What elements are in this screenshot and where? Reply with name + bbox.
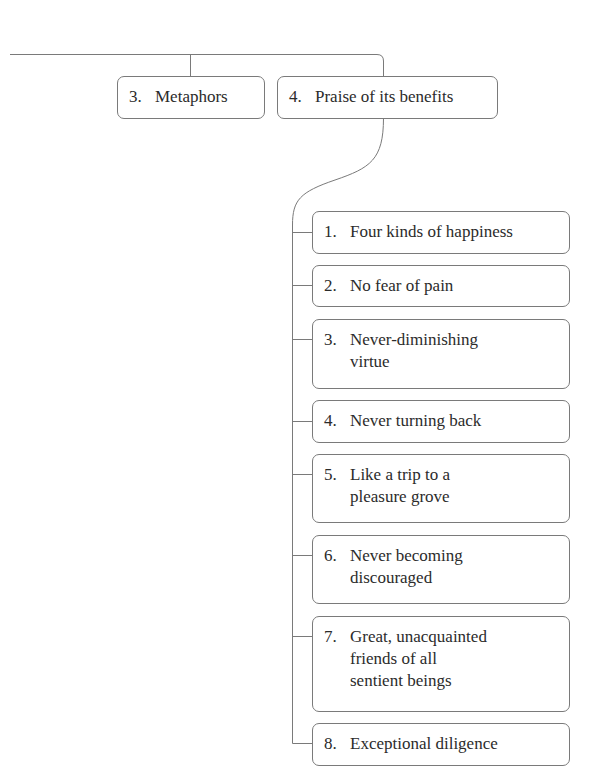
node-label: Exceptional diligence (350, 733, 559, 755)
node-never-becoming-discouraged: 6. Never becoming discouraged (312, 535, 570, 604)
node-exceptional-diligence: 8. Exceptional diligence (312, 723, 570, 766)
node-number: 5. (324, 464, 350, 486)
node-label: Metaphors (155, 86, 254, 108)
node-number: 4. (289, 86, 315, 108)
curved-connector (293, 118, 384, 225)
node-never-turning-back: 4. Never turning back (312, 400, 570, 443)
top-horizontal-connector (10, 55, 384, 77)
node-label: Great, unacquainted friends of all senti… (350, 626, 559, 692)
node-never-diminishing-virtue: 3. Never-diminishing virtue (312, 319, 570, 389)
node-praise-of-benefits: 4. Praise of its benefits (277, 76, 498, 119)
node-label: Never turning back (350, 410, 559, 432)
trunk-connector (293, 225, 313, 744)
node-number: 2. (324, 275, 350, 297)
node-number: 1. (324, 221, 350, 243)
node-label: Like a trip to a pleasure grove (350, 464, 559, 508)
node-metaphors: 3. Metaphors (117, 76, 265, 119)
node-label: Never becoming discouraged (350, 545, 559, 589)
node-number: 7. (324, 626, 350, 648)
node-number: 3. (129, 86, 155, 108)
node-number: 4. (324, 410, 350, 432)
node-four-kinds-of-happiness: 1. Four kinds of happiness (312, 211, 570, 254)
node-label: Four kinds of happiness (350, 221, 559, 243)
node-label: Praise of its benefits (315, 86, 487, 108)
node-label: No fear of pain (350, 275, 559, 297)
node-number: 8. (324, 733, 350, 755)
node-unacquainted-friends: 7. Great, unacquainted friends of all se… (312, 616, 570, 712)
node-number: 6. (324, 545, 350, 567)
node-label: Never-diminishing virtue (350, 329, 559, 373)
node-no-fear-of-pain: 2. No fear of pain (312, 265, 570, 307)
node-number: 3. (324, 329, 350, 351)
node-trip-to-pleasure-grove: 5. Like a trip to a pleasure grove (312, 454, 570, 523)
